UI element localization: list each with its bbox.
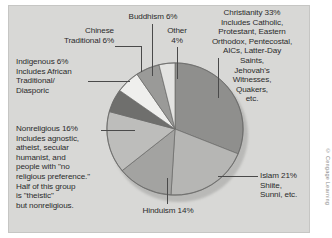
leader-line-hinduism — [167, 178, 168, 204]
label-christianity: Christianity 33% Includes Catholic, Prot… — [196, 8, 308, 104]
label-islam: Islam 21% Shiite, Sunni, etc. — [260, 171, 322, 200]
label-hinduism: Hinduism 14% — [128, 206, 208, 216]
leader-line-islam — [218, 176, 258, 177]
label-other: Other 4% — [155, 26, 199, 45]
copyright-credit: © Cengage Learning — [325, 148, 331, 205]
leader-line-other — [177, 47, 178, 79]
leader-line-chinese-v — [141, 46, 142, 72]
pie-chart-figure: Christianity 33% Includes Catholic, Prot… — [0, 0, 332, 238]
label-nonreligious: Nonreligious 16% Includes agnostic, athe… — [16, 124, 122, 210]
label-chinese-traditional: Chinese Traditional 6% — [32, 26, 114, 45]
leader-line-chinese-h — [115, 46, 142, 47]
label-indigenous: Indigenous 6% Includes African Tradition… — [16, 57, 112, 95]
leader-line-buddhism — [152, 24, 153, 76]
label-buddhism: Buddhism 6% — [108, 12, 198, 22]
